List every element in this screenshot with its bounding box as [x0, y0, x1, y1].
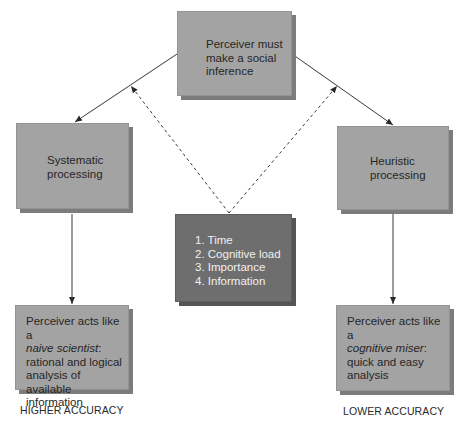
- node-social-inference: Perceiver must make a social inference: [177, 11, 292, 96]
- node-text-line: Heuristic: [370, 155, 426, 169]
- node-text-line: Systematic: [47, 154, 103, 168]
- node-text-line: processing: [47, 168, 103, 182]
- node-text-line: cognitive miser:: [347, 342, 449, 356]
- outcome-lower-accuracy: LOWER ACCURACY: [343, 405, 444, 417]
- colon: :: [98, 342, 101, 354]
- node-text-line: processing: [370, 169, 426, 183]
- node-text-line: quick and easy: [347, 356, 449, 370]
- node-text-line: Perceiver must: [206, 38, 283, 52]
- node-text-line: analysis of available: [26, 369, 128, 396]
- node-naive-scientist: Perceiver acts like a naive scientist: r…: [15, 305, 129, 390]
- node-text-line: make a social: [206, 52, 283, 66]
- node-systematic-processing: Systematic processing: [16, 123, 129, 209]
- outcome-higher-accuracy: HIGHER ACCURACY: [20, 404, 124, 416]
- node-text-line: inference: [206, 65, 283, 79]
- arrow-top-to-systematic: [75, 54, 177, 122]
- arrow-top-to-heuristic: [292, 54, 393, 125]
- colon: :: [424, 342, 427, 354]
- node-cognitive-miser: Perceiver acts like a cognitive miser: q…: [336, 305, 450, 391]
- italic-term: naive scientist: [26, 342, 98, 354]
- node-heuristic-processing: Heuristic processing: [337, 126, 449, 210]
- node-text-line: Perceiver acts like a: [347, 315, 449, 342]
- dashed-arrow-factors-left: [131, 86, 229, 213]
- factor-item: 3. Importance: [195, 261, 281, 275]
- node-text-line: rational and logical: [26, 356, 128, 370]
- factor-item: 4. Information: [195, 275, 281, 289]
- factor-item: 1. Time: [195, 234, 281, 248]
- node-text-line: analysis: [347, 369, 449, 383]
- factor-item: 2. Cognitive load: [195, 248, 281, 262]
- italic-term: cognitive miser: [347, 342, 424, 354]
- node-moderating-factors: 1. Time 2. Cognitive load 3. Importance …: [175, 214, 292, 302]
- dashed-arrow-factors-right: [229, 86, 337, 213]
- node-text-line: naive scientist:: [26, 342, 128, 356]
- node-text-line: Perceiver acts like a: [26, 315, 128, 342]
